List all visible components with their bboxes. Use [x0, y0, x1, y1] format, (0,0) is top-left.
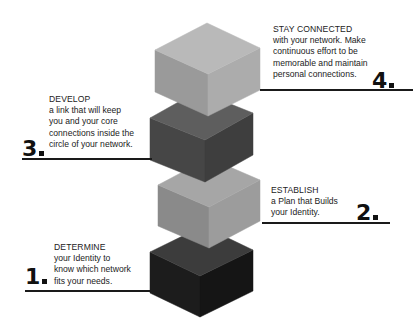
- step-4-heading: STAY CONNECTED: [273, 24, 393, 35]
- step-1-text: DETERMINE your Identity to know which ne…: [54, 242, 154, 287]
- number-dot: [42, 279, 47, 284]
- number-dot: [39, 151, 44, 156]
- step-1-heading: DETERMINE: [54, 242, 154, 253]
- step-3-line: connections inside the: [49, 128, 149, 139]
- step-4-line: continuous effort to be: [273, 46, 393, 57]
- step-1-line: know which network: [54, 264, 154, 275]
- number-dot: [389, 83, 394, 88]
- step-3-line: you and your core: [49, 116, 149, 127]
- step-4-line: with your network. Make: [273, 35, 393, 46]
- step-1-underline: [25, 290, 151, 292]
- step-3-line: circle of your network.: [49, 139, 149, 150]
- cube-step-4: [155, 23, 260, 116]
- step-4-underline: [260, 89, 413, 91]
- step-1-number: 1: [25, 266, 47, 288]
- step-3-text: DEVELOP a link that will keep you and yo…: [49, 94, 149, 150]
- stacked-cubes-diagram: STAY CONNECTED with your network. Make c…: [0, 0, 413, 334]
- step-2-heading: ESTABLISH: [271, 185, 371, 196]
- step-1-number-text: 1: [25, 264, 40, 289]
- step-1-line: fits your needs.: [54, 276, 154, 287]
- step-2-underline: [262, 222, 390, 224]
- step-2-number: 2: [356, 202, 378, 224]
- step-3-number: 3: [22, 138, 44, 160]
- step-3-underline: [22, 158, 152, 160]
- step-3-heading: DEVELOP: [49, 94, 149, 105]
- number-dot: [373, 215, 378, 220]
- step-1-line: your Identity to: [54, 253, 154, 264]
- step-3-line: a link that will keep: [49, 105, 149, 116]
